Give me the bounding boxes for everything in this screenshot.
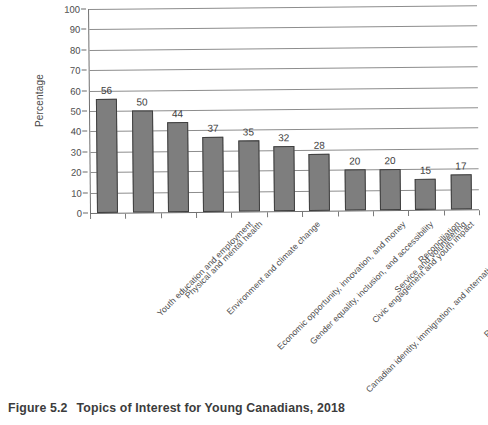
gridline <box>90 66 478 71</box>
gridline <box>89 26 477 31</box>
gridlines-group <box>0 0 486 1</box>
bar-value-label: 17 <box>455 161 466 172</box>
bar-value-label: 37 <box>207 122 218 133</box>
bar <box>273 146 295 211</box>
y-axis-tick-label: 20 <box>71 167 82 178</box>
figure-caption: Figure 5.2Topics of Interest for Young C… <box>8 401 345 415</box>
bar <box>415 179 436 210</box>
bar-value-label: 28 <box>314 140 325 151</box>
figure-container: Percentage 1009080706050403020100 565044… <box>0 0 488 425</box>
y-axis-tick-label: 80 <box>70 44 81 55</box>
x-axis-ticks <box>0 0 486 1</box>
y-axis-tick-mark <box>82 131 87 132</box>
y-axis-tick-mark <box>81 9 86 10</box>
y-axis-tick-mark <box>81 49 86 50</box>
y-axis-tick-mark <box>82 151 87 152</box>
bar <box>132 110 154 212</box>
bar <box>450 175 471 210</box>
gridline <box>90 87 478 92</box>
y-axis-tick-label: 50 <box>70 106 81 117</box>
y-axis-tick-mark <box>82 70 87 71</box>
bar-chart: Percentage 1009080706050403020100 565044… <box>0 0 488 230</box>
bar-value-label: 56 <box>101 85 112 96</box>
y-axis-tick-mark <box>82 111 87 112</box>
bar <box>380 169 401 210</box>
bars-group <box>0 0 486 1</box>
plot-area: 1009080706050403020100 56504437353228202… <box>0 0 488 231</box>
bar <box>344 170 365 211</box>
bar-value-label: 44 <box>172 108 183 119</box>
y-axis-tick-label: 30 <box>71 146 82 157</box>
bar-value-label: 50 <box>136 96 147 107</box>
gridline <box>89 5 477 10</box>
bar-value-label: 20 <box>349 156 360 167</box>
x-axis-category-labels: Youth education and employmentPhysical a… <box>0 213 488 388</box>
y-axis-tick-mark <box>83 172 88 173</box>
y-axis-tick-mark <box>82 90 87 91</box>
bar <box>309 154 331 211</box>
y-axis-tick-label: 60 <box>70 85 81 96</box>
bar-value-label: 15 <box>420 165 431 176</box>
y-axis-tick-label: 40 <box>71 126 82 137</box>
bar-value-label: 35 <box>243 126 254 137</box>
bar <box>238 140 260 212</box>
y-axis-tick-label: 100 <box>64 4 80 15</box>
figure-number: Figure 5.2 <box>8 401 68 415</box>
y-axis-tick-label: 90 <box>70 24 81 35</box>
y-axis-ticks: 1009080706050403020100 <box>46 8 88 214</box>
bar <box>96 98 118 212</box>
y-axis-tick-mark <box>81 29 86 30</box>
bar-value-label: 32 <box>278 132 289 143</box>
gridline <box>89 46 477 51</box>
figure-title: Topics of Interest for Young Canadians, … <box>77 401 345 415</box>
bar-value-labels-group: 5650443735322820201517 <box>0 0 486 1</box>
y-axis-tick-label: 70 <box>70 65 81 76</box>
y-axis-tick-mark <box>83 192 88 193</box>
bar <box>203 136 225 212</box>
bar-value-label: 20 <box>384 155 395 166</box>
y-axis-tick-label: 10 <box>71 187 82 198</box>
bar <box>167 122 189 212</box>
